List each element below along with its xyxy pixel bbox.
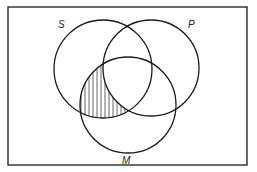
set-m-label: M (122, 155, 131, 166)
set-p-label: P (188, 19, 195, 30)
venn-diagram: S P M (0, 0, 257, 172)
set-s-label: S (58, 19, 65, 30)
